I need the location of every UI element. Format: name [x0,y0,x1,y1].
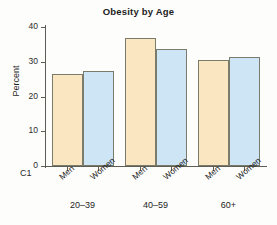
bar-men-1 [125,38,156,166]
y-tick-label: 30 [16,57,38,66]
plot-area [46,27,265,166]
bar-women-2 [229,57,260,166]
bar-men-2 [198,60,229,166]
bar-men-0 [52,74,83,166]
group-label: 60+ [188,200,270,210]
y-tick [41,166,46,167]
bar-women-1 [156,49,187,166]
y-tick-label: 40 [16,22,38,31]
axis-variable-label: C1 [20,168,32,178]
x-axis-line [45,166,267,167]
group-label: 40–59 [115,200,197,210]
y-tick-label: 20 [16,92,38,101]
chart-title: Obesity by Age [0,6,277,17]
y-axis-title: Percent [11,41,21,121]
y-tick-label: 10 [16,126,38,135]
chart-figure: Obesity by Age Percent C1 010203040 MenW… [0,0,277,225]
group-label: 20–39 [42,200,124,210]
y-tick-label: 0 [16,161,38,170]
bar-women-0 [83,71,114,166]
